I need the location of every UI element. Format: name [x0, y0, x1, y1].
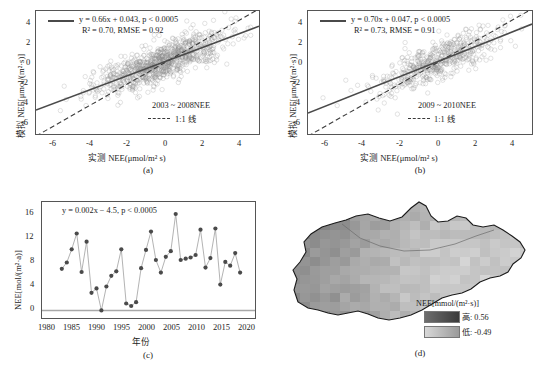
panel-a-xtick-m6: -6: [49, 138, 56, 148]
panel-a-legend-oneone: 1:1 线: [175, 112, 196, 124]
panel-c-ytick-0: 0: [30, 303, 34, 313]
panel-a-ytick-4: 4: [26, 17, 30, 27]
panel-a-legend-dash-swatch: [148, 118, 170, 119]
panel-a: 模拟 NEE[μmol/(m²·s)] 4 2 0 -2 -4 -6 -6 -4…: [0, 0, 272, 180]
panel-a-ytick-0: 0: [26, 57, 30, 67]
panel-b-xtick-4: 4: [510, 138, 514, 148]
panel-d-legend-high: 高: 0.56: [462, 310, 489, 322]
panel-a-letter: (a): [128, 165, 168, 175]
panel-b-legend-dash-swatch: [408, 118, 430, 119]
panel-d-legend-high-swatch: [424, 311, 460, 323]
panel-a-ytick-2: 2: [26, 37, 30, 47]
panel-b-eqn-legend-line: [320, 20, 346, 22]
panel-a-ytick-m6: -6: [21, 117, 28, 127]
figure-root: 模拟 NEE[μmol/(m²·s)] 4 2 0 -2 -4 -6 -6 -4…: [0, 0, 545, 377]
panel-c-letter: (c): [128, 350, 168, 360]
panel-b-xtick-m2: -2: [396, 138, 403, 148]
panel-a-legend-series: 2003 ~ 2008NEE: [152, 101, 210, 110]
panel-c-equation: y = 0.002x − 4.5, p < 0.0005: [62, 206, 157, 216]
panel-b-legend-oneone: 1:1 线: [434, 112, 455, 124]
panel-b: 模拟 NEE[μmol/(m²·s)] 4 2 0 -2 -4 -6 -6 -4…: [272, 0, 545, 180]
panel-b-xtick-2: 2: [473, 138, 477, 148]
panel-d-map-canvas: [280, 194, 530, 329]
panel-b-ytick-m2: -2: [293, 77, 300, 87]
panel-c-ylabel: NEE[mol/(m²·a)]: [13, 250, 23, 310]
panel-b-ytick-0: 0: [298, 57, 302, 67]
panel-a-xtick-m2: -2: [123, 138, 130, 148]
panel-b-xtick-m4: -4: [358, 138, 365, 148]
panel-c-xtick-2000: 2000: [138, 322, 155, 332]
panel-b-xlabel: 实测 NEE(μmol/m² s): [360, 151, 438, 163]
panel-d-map: [280, 194, 530, 329]
panel-c-plot-area: [41, 201, 256, 319]
panel-c-ytick-8: 8: [30, 255, 34, 265]
panel-a-equation-line2: R² = 0.70, RMSE = 0.92: [82, 26, 163, 36]
panel-c-ytick-4: 4: [30, 279, 34, 289]
panel-b-ytick-m6: -6: [293, 117, 300, 127]
panel-b-equation-line1: y = 0.70x + 0.047, p < 0.0005: [351, 15, 450, 25]
panel-a-xtick-2: 2: [200, 138, 204, 148]
panel-c-xtick-1995: 1995: [113, 322, 130, 332]
panel-c-ytick-12: 12: [25, 231, 34, 241]
panel-b-equation-line2: R² = 0.73, RMSE = 0.91: [354, 26, 435, 36]
panel-c-xtick-2010: 2010: [188, 322, 205, 332]
panel-b-ytick-2: 2: [298, 37, 302, 47]
panel-a-xlabel: 实测 NEE(μmol/m² s): [88, 151, 166, 163]
panel-d-legend-title: NEE[mmol/(m²·s)]: [416, 299, 479, 308]
panel-a-xtick-0: 0: [163, 138, 167, 148]
panel-d-legend-low: 低: -0.49: [462, 325, 491, 337]
panel-a-ytick-m2: -2: [21, 77, 28, 87]
panel-b-letter: (b): [400, 165, 440, 175]
panel-b-legend-series: 2009 ~ 2010NEE: [418, 101, 476, 110]
panel-c-xtick-2015: 2015: [213, 322, 230, 332]
panel-a-equation-line1: y = 0.66x + 0.043, p < 0.0005: [79, 15, 178, 25]
panel-c-canvas: [42, 202, 255, 318]
panel-d-letter: (d): [400, 348, 440, 358]
panel-c-ytick-16: 16: [25, 207, 34, 217]
panel-b-xtick-m6: -6: [321, 138, 328, 148]
panel-c-xtick-2005: 2005: [163, 322, 180, 332]
panel-b-ytick-4: 4: [298, 17, 302, 27]
panel-c: NEE[mol/(m²·a)] 16 12 8 4 0 y = 0.002x −…: [0, 180, 272, 377]
panel-b-xtick-0: 0: [436, 138, 440, 148]
panel-c-xlabel: 年份: [132, 335, 150, 347]
panel-a-xtick-m4: -4: [86, 138, 93, 148]
panel-c-xtick-2020: 2020: [238, 322, 255, 332]
panel-b-ytick-m4: -4: [293, 97, 300, 107]
panel-a-ytick-m4: -4: [21, 97, 28, 107]
panel-c-xtick-1985: 1985: [63, 322, 80, 332]
panel-d-legend-low-swatch: [424, 326, 460, 338]
panel-c-xtick-1980: 1980: [38, 322, 55, 332]
panel-a-eqn-legend-line: [48, 20, 74, 22]
panel-d: NEE[mmol/(m²·s)] 高: 0.56 低: -0.49 (d): [272, 180, 545, 377]
panel-c-xtick-1990: 1990: [88, 322, 105, 332]
panel-a-xtick-4: 4: [237, 138, 241, 148]
